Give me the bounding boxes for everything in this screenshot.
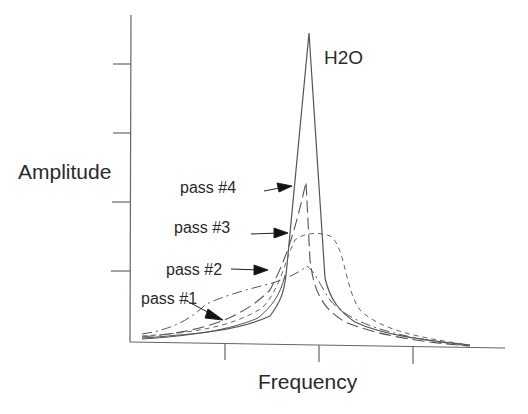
y-ticks [111,64,131,271]
chart-canvas [0,0,528,414]
x-axis-label: Frequency [258,370,357,394]
h2o-label: H2O [324,47,363,69]
pass3-label: pass #3 [174,219,230,237]
pass4-label: pass #4 [180,179,236,197]
annotation-arrows [185,183,292,320]
pass2-label: pass #2 [166,261,222,279]
pass1-label: pass #1 [141,290,197,308]
y-axis-label: Amplitude [18,160,111,184]
x-ticks [225,344,413,364]
